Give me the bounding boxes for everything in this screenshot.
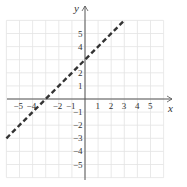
axes: [7, 6, 172, 180]
x-axis-label: x: [167, 102, 173, 114]
y-tick-label: −5: [73, 160, 83, 170]
x-tick-label: 4: [135, 101, 140, 111]
x-tick-label: 2: [109, 101, 114, 111]
y-axis-label: y: [73, 2, 79, 14]
y-tick-label: 1: [78, 81, 83, 91]
y-tick-label: 5: [78, 29, 83, 39]
x-tick-label: 5: [148, 101, 153, 111]
y-tick-label: 2: [78, 68, 83, 78]
y-tick-label: 4: [78, 42, 83, 52]
y-tick-label: −2: [73, 120, 83, 130]
y-tick-label: −3: [73, 133, 83, 143]
x-tick-label: 1: [96, 101, 101, 111]
x-tick-label: −5: [14, 101, 24, 111]
coordinate-plane: x y −5−4−2−112345 5421−1−2−3−4−5: [0, 0, 187, 187]
y-tick-label: −1: [73, 107, 83, 117]
y-tick-label: −4: [73, 146, 83, 156]
x-tick-label: −2: [53, 101, 63, 111]
dashed-line-series: [6, 20, 124, 138]
x-tick-label: 3: [122, 101, 127, 111]
